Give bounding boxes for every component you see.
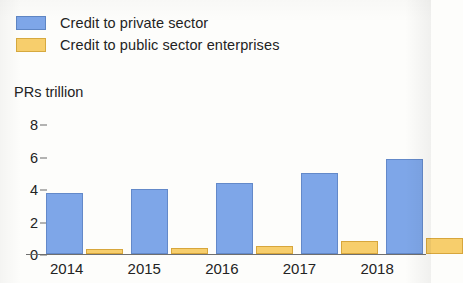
bar-private-2018 — [386, 159, 423, 253]
x-tick-label-2015: 2015 — [116, 260, 194, 277]
bar-public-2017 — [341, 241, 378, 253]
plot-wrapper: 0 2 4 6 8 — [0, 112, 431, 283]
plot-area: 0 2 4 6 8 — [38, 112, 426, 255]
legend-label-public: Credit to public sector enterprises — [60, 37, 280, 53]
bar-private-2017 — [301, 173, 338, 253]
y-tick-label-6: 6 — [8, 150, 38, 165]
x-tick-label-2016: 2016 — [193, 260, 271, 277]
legend-swatch-public-icon — [16, 38, 46, 52]
bar-group-2016 — [208, 113, 293, 254]
bar-private-2016 — [216, 183, 253, 254]
legend-swatch-private-icon — [16, 16, 46, 30]
y-tick-label-8: 8 — [8, 118, 38, 133]
legend-item-private: Credit to private sector — [16, 12, 280, 34]
bar-group-2014 — [38, 113, 123, 254]
chart-legend: Credit to private sector Credit to publi… — [16, 12, 280, 56]
y-axis-unit-label: PRs trillion — [14, 84, 83, 100]
bar-groups — [38, 113, 426, 254]
bar-public-2016 — [256, 246, 293, 253]
y-tick-label-2: 2 — [8, 215, 38, 230]
bar-public-2018 — [426, 238, 463, 253]
x-tick-label-2017: 2017 — [271, 260, 349, 277]
bar-private-2014 — [46, 193, 83, 253]
x-axis-labels: 2014 2015 2016 2017 2018 — [38, 260, 426, 277]
x-tick-label-2018: 2018 — [348, 260, 426, 277]
legend-item-public: Credit to public sector enterprises — [16, 34, 280, 56]
bar-group-2015 — [123, 113, 208, 254]
bar-private-2015 — [131, 189, 168, 253]
bar-group-2017 — [293, 113, 378, 254]
bar-group-2018 — [378, 113, 463, 254]
y-tick-label-0: 0 — [8, 248, 38, 263]
x-axis-line — [26, 254, 426, 256]
legend-label-private: Credit to private sector — [60, 15, 208, 31]
x-tick-label-2014: 2014 — [38, 260, 116, 277]
y-tick-label-4: 4 — [8, 183, 38, 198]
